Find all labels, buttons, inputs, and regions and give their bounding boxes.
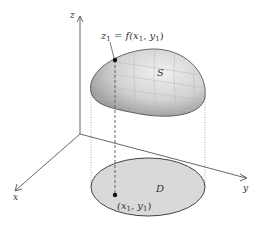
surface-point bbox=[113, 58, 117, 62]
y-axis-label: y bbox=[242, 183, 249, 193]
region-label: D bbox=[155, 183, 164, 194]
surface-over-region-diagram: z x y S D z1 = f(x1, y1) (x1, y1) bbox=[0, 0, 267, 228]
x-axis bbox=[16, 134, 80, 190]
leader-line bbox=[110, 42, 114, 58]
x-axis-label: x bbox=[13, 192, 18, 202]
y-axis-front bbox=[205, 167, 246, 178]
surface-label: S bbox=[157, 67, 164, 78]
surface-point-label: z1 = f(x1, y1) bbox=[100, 30, 164, 43]
region-point bbox=[113, 193, 117, 197]
surface-s bbox=[90, 48, 205, 118]
z-axis-label: z bbox=[69, 10, 75, 20]
